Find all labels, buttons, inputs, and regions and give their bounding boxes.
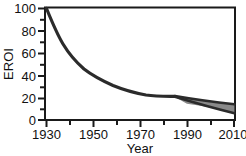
y-tick-label-0: 0: [29, 113, 36, 128]
eroi-decline-chart: 100 80 60 40 20 0 1930 1950 1970 19: [0, 0, 246, 156]
y-tick-label-20: 20: [22, 91, 36, 106]
x-axis-title: Year: [127, 141, 154, 156]
y-tick-label-60: 60: [22, 46, 36, 61]
y-tick-label-40: 40: [22, 69, 36, 84]
x-tick-label-1930: 1930: [32, 127, 61, 142]
x-tick-label-1970: 1970: [126, 127, 155, 142]
chart-svg: 100 80 60 40 20 0 1930 1950 1970 19: [0, 0, 246, 156]
y-tick-label-80: 80: [22, 24, 36, 39]
x-tick-label-1990: 1990: [173, 127, 202, 142]
x-tick-label-1950: 1950: [79, 127, 108, 142]
x-tick-label-2010: 2010: [219, 127, 246, 142]
y-axis-title: EROI: [1, 48, 16, 80]
y-tick-label-100: 100: [14, 1, 36, 16]
